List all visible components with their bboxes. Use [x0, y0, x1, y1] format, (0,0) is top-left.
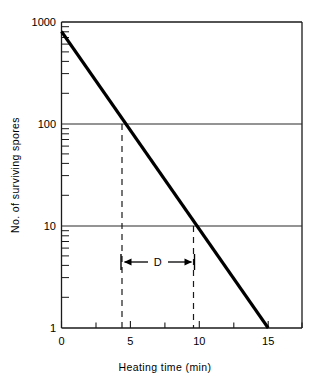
y-tick-label-100: 100	[38, 118, 56, 130]
chart-background	[0, 0, 318, 389]
x-tick-label-15: 15	[262, 335, 274, 347]
chart-figure: D 1000 100 10 1 0 5 10 15 Heating time (…	[0, 0, 318, 389]
x-tick-label-5: 5	[127, 335, 133, 347]
d-annotation-label: D	[154, 256, 162, 268]
y-tick-label-1: 1	[50, 322, 56, 334]
spore-survival-semilog-chart: D 1000 100 10 1 0 5 10 15 Heating time (…	[0, 0, 318, 389]
x-tick-label-10: 10	[193, 335, 205, 347]
y-axis-title: No. of surviving spores	[9, 117, 21, 233]
y-tick-label-10: 10	[44, 220, 56, 232]
x-tick-label-0: 0	[58, 335, 64, 347]
x-axis-title: Heating time (min)	[119, 361, 212, 373]
y-tick-label-1000: 1000	[32, 16, 56, 28]
